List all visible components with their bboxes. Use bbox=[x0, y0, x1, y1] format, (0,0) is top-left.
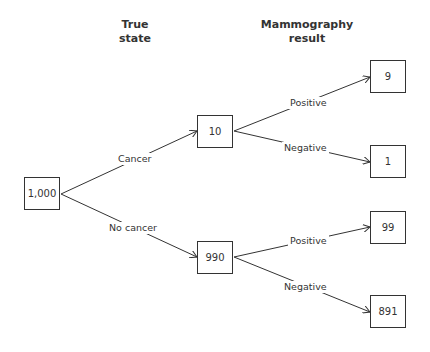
edge-label-cancer: Cancer bbox=[116, 153, 153, 165]
edge-label-no-cancer: No cancer bbox=[107, 222, 159, 234]
node-no-cancer-positive-value: 99 bbox=[382, 222, 395, 233]
tree-edges bbox=[0, 0, 430, 352]
edge-label-no-cancer-negative: Negative bbox=[282, 281, 329, 293]
node-no-cancer-positive: 99 bbox=[370, 211, 406, 244]
node-cancer-value: 10 bbox=[209, 126, 222, 137]
node-no-cancer-value: 990 bbox=[205, 252, 224, 263]
edge-label-cancer-positive: Positive bbox=[288, 97, 329, 109]
node-no-cancer: 990 bbox=[197, 241, 233, 274]
node-root-value: 1,000 bbox=[28, 188, 57, 199]
node-cancer: 10 bbox=[197, 115, 233, 148]
node-root: 1,000 bbox=[24, 177, 60, 210]
edge-label-cancer-negative: Negative bbox=[282, 142, 329, 154]
node-cancer-negative-value: 1 bbox=[385, 156, 391, 167]
node-no-cancer-negative: 891 bbox=[370, 295, 406, 328]
node-no-cancer-negative-value: 891 bbox=[378, 306, 397, 317]
node-cancer-positive-value: 9 bbox=[385, 71, 391, 82]
node-cancer-negative: 1 bbox=[370, 145, 406, 178]
edge-label-no-cancer-positive: Positive bbox=[288, 235, 329, 247]
node-cancer-positive: 9 bbox=[370, 60, 406, 93]
